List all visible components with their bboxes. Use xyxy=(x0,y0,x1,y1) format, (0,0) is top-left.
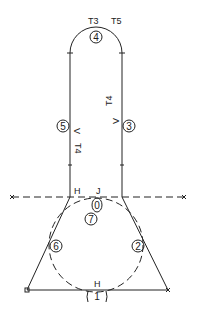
label-h-top: H xyxy=(74,186,81,196)
point-2: 2 xyxy=(132,240,144,252)
label-h-bottom: H xyxy=(94,279,101,289)
left-slant-line xyxy=(27,197,70,290)
label-v-right: V xyxy=(111,118,121,124)
label-t5: T5 xyxy=(111,16,122,26)
svg-text:2: 2 xyxy=(135,241,141,252)
label-t3: T3 xyxy=(88,16,99,26)
label-v-left: V xyxy=(72,128,82,134)
svg-text:4: 4 xyxy=(93,32,99,43)
svg-text:6: 6 xyxy=(53,241,59,252)
point-6: 6 xyxy=(50,240,62,252)
label-t4-right: T4 xyxy=(104,95,114,106)
point-1: 1 xyxy=(87,291,107,302)
svg-text:0: 0 xyxy=(94,200,100,211)
point-7: 7 xyxy=(85,213,97,225)
point-0: 0 xyxy=(92,198,102,212)
label-j: J xyxy=(96,186,101,196)
label-t4-left: T4 xyxy=(73,143,83,154)
point-4: 4 xyxy=(90,31,102,43)
svg-text:5: 5 xyxy=(60,121,66,132)
svg-text:1: 1 xyxy=(94,291,100,302)
point-3: 3 xyxy=(123,120,135,132)
pattern-diagram: T3 T5 T4 T4 V V H J H 4 5 3 0 7 6 2 1 xyxy=(0,0,197,315)
svg-text:7: 7 xyxy=(88,214,94,225)
svg-text:3: 3 xyxy=(126,121,132,132)
point-5: 5 xyxy=(57,120,69,132)
